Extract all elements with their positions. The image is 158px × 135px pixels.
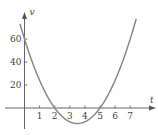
x-tick-label: 7 [127, 111, 133, 121]
velocity-chart: 1234567204060 t v [0, 0, 158, 135]
x-axis-label: t [150, 95, 154, 105]
y-axis-arrow [22, 12, 27, 19]
x-tick-label: 5 [97, 111, 103, 121]
y-tick-label: 40 [10, 57, 22, 67]
x-tick-label: 4 [82, 111, 88, 121]
y-tick-label: 60 [10, 34, 22, 44]
x-tick-label: 6 [112, 111, 118, 121]
x-tick-label: 2 [52, 111, 58, 121]
y-axis-label: v [30, 7, 35, 17]
x-axis-arrow [149, 106, 156, 111]
x-tick-label: 1 [37, 111, 43, 121]
y-tick-label: 20 [10, 80, 22, 90]
x-tick-label: 3 [67, 111, 73, 121]
